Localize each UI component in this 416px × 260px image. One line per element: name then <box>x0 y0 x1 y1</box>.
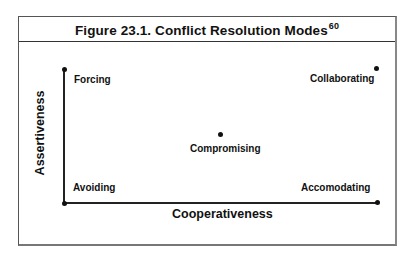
label-collaborating: Collaborating <box>310 73 374 84</box>
figure-title: Figure 23.1. Conflict Resolution Modes60 <box>75 21 339 38</box>
accomodating-point <box>375 200 380 205</box>
figure-title-text: Figure 23.1. Conflict Resolution Modes <box>75 23 328 38</box>
y-axis-line <box>63 69 65 203</box>
compromising-point <box>218 132 223 137</box>
footnote-marker: 60 <box>329 21 339 31</box>
title-bar: Figure 23.1. Conflict Resolution Modes60 <box>19 17 395 42</box>
label-compromising: Compromising <box>190 143 261 154</box>
x-axis-line <box>64 202 377 204</box>
avoiding-point <box>62 201 67 206</box>
x-axis-label: Cooperativeness <box>172 207 273 221</box>
label-avoiding: Avoiding <box>73 182 115 193</box>
y-axis-label: Assertiveness <box>33 88 47 178</box>
label-forcing: Forcing <box>74 74 111 85</box>
label-accomodating: Accomodating <box>301 182 370 193</box>
forcing-point <box>62 67 67 72</box>
collaborating-point <box>374 66 379 71</box>
